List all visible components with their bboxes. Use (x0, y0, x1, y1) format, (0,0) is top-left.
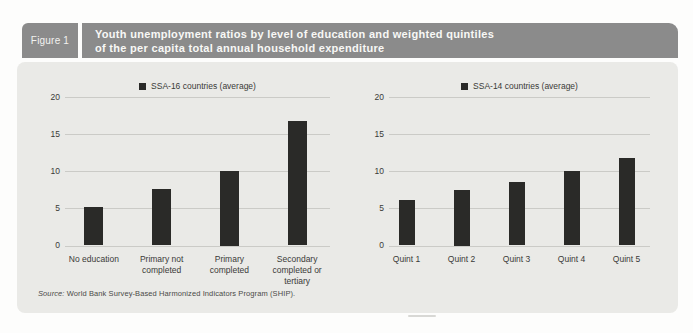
legend: SSA-16 countries (average) (65, 81, 330, 91)
category-label: Quint 5 (600, 254, 654, 265)
bar (564, 171, 580, 246)
bar (454, 190, 470, 246)
figure-title-line2: of the per capita total annual household… (95, 42, 668, 56)
y-tick-label: 5 (352, 203, 384, 213)
legend-swatch (139, 83, 146, 90)
legend-swatch (461, 83, 468, 90)
source-prefix: Source: (38, 289, 65, 298)
category-label: Quint 1 (380, 254, 434, 265)
y-tick-label: 15 (28, 129, 60, 139)
category-label: Quint 2 (435, 254, 489, 265)
bar (152, 189, 171, 245)
gridline (65, 97, 330, 98)
scan-artifact-mark (408, 315, 436, 317)
bar (84, 207, 103, 246)
category-label: Primary not completed (126, 254, 198, 276)
gridline (389, 97, 650, 98)
y-tick-label: 10 (28, 166, 60, 176)
bar (220, 171, 239, 245)
category-label: No education (58, 254, 130, 265)
y-tick-label: 20 (28, 92, 60, 102)
gridline (389, 134, 650, 135)
page: Figure 1 Youth unemployment ratios by le… (0, 0, 693, 333)
y-tick-label: 0 (352, 240, 384, 250)
gridline (65, 246, 330, 247)
chart-panel: Source: World Bank Survey-Based Harmoniz… (17, 62, 678, 313)
bar (399, 200, 415, 245)
category-label: Quint 3 (490, 254, 544, 265)
figure-number-label: Figure 1 (22, 23, 78, 58)
legend-label: SSA-16 countries (average) (151, 81, 256, 91)
bar (288, 121, 307, 246)
figure-title-line1: Youth unemployment ratios by level of ed… (95, 28, 668, 42)
y-tick-label: 0 (28, 240, 60, 250)
y-tick-label: 5 (28, 203, 60, 213)
category-label: Primary completed (193, 254, 265, 276)
gridline (389, 246, 650, 247)
y-tick-label: 10 (352, 166, 384, 176)
y-tick-label: 20 (352, 92, 384, 102)
gridline (389, 171, 650, 172)
source-text: World Bank Survey-Based Harmonized Indic… (65, 289, 296, 298)
category-label: Secondary completed or tertiary (261, 254, 333, 287)
bar (619, 158, 635, 246)
legend-label: SSA-14 countries (average) (473, 81, 578, 91)
bar (509, 182, 525, 245)
figure-title: Youth unemployment ratios by level of ed… (82, 23, 678, 58)
legend: SSA-14 countries (average) (389, 81, 650, 91)
source-note: Source: World Bank Survey-Based Harmoniz… (38, 289, 295, 298)
y-tick-label: 15 (352, 129, 384, 139)
category-label: Quint 4 (545, 254, 599, 265)
